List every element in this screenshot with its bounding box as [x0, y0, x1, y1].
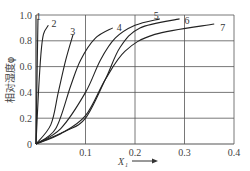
y-tick-label: 0.4	[20, 87, 33, 98]
y-axis-label: 相对湿度φ	[4, 56, 16, 103]
chart-canvas: 1234567 00.20.40.60.81.00.10.20.30.4 相对湿…	[0, 0, 250, 171]
x-axis-label-main: X	[117, 156, 125, 167]
arrowhead-icon	[152, 159, 158, 164]
curve-5	[36, 19, 160, 144]
y-tick-label: 0.2	[20, 113, 33, 124]
curves	[36, 19, 214, 144]
y-tick-label: 1.0	[20, 10, 33, 21]
curve-labels: 1234567	[36, 10, 225, 37]
curve-label-4: 4	[117, 22, 122, 33]
x-tick-label: 0.4	[228, 147, 241, 158]
curve-label-5: 5	[154, 10, 159, 21]
curve-label-2: 2	[51, 18, 56, 29]
x-tick-label: 0.1	[79, 147, 92, 158]
x-axis-label-subscript: 1	[125, 162, 128, 168]
y-tick-label: 0.6	[20, 61, 33, 72]
x-tick-label: 0.3	[178, 147, 191, 158]
y-tick-label: 0.8	[20, 35, 33, 46]
curve-label-7: 7	[220, 22, 225, 33]
curve-label-3: 3	[70, 26, 75, 37]
curve-label-6: 6	[185, 15, 190, 26]
curve-label-1: 1	[36, 11, 41, 22]
tick-labels: 00.20.40.60.81.00.10.20.30.4	[20, 10, 241, 159]
x-tick-label: 0.2	[129, 147, 142, 158]
y-tick-label: 0	[27, 139, 32, 150]
grid-lines	[36, 15, 234, 144]
